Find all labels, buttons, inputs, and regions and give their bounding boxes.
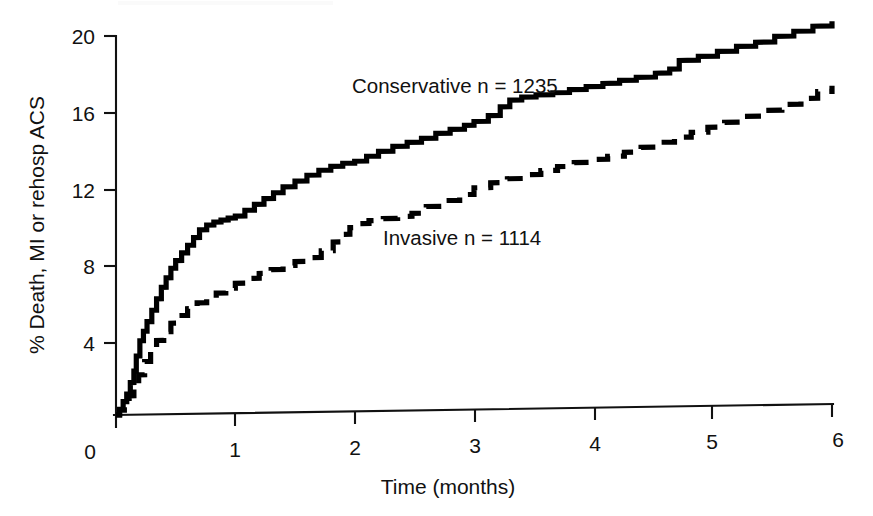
y-tick-label: 12 — [72, 179, 95, 202]
x-tick-label: 5 — [706, 430, 718, 453]
y-tick-label: 20 — [72, 25, 95, 48]
y-tick-marks — [104, 36, 116, 343]
x-axis-title: Time (months) — [381, 475, 516, 498]
x-tick-label: 2 — [349, 436, 361, 459]
series-annotation-conservative: Conservative n = 1235 — [352, 74, 558, 97]
y-tick-label: 8 — [83, 255, 95, 278]
series-annotation-invasive: Invasive n = 1114 — [383, 226, 541, 249]
x-tick-label: 0 — [84, 440, 96, 463]
y-axis-title: % Death, MI or rehosp ACS — [25, 96, 48, 354]
x-tick-label: 4 — [589, 432, 601, 455]
y-tick-labels: 20 16 12 8 4 — [72, 25, 96, 355]
y-tick-label: 4 — [83, 332, 95, 355]
x-axis-line — [114, 404, 833, 415]
figure-container: 20 16 12 8 4 0 1 2 3 4 5 6 Time (months)… — [0, 0, 873, 516]
x-tick-label: 6 — [832, 428, 844, 451]
chart-canvas: 20 16 12 8 4 0 1 2 3 4 5 6 Time (months)… — [0, 0, 873, 516]
x-tick-marks — [116, 404, 832, 428]
x-tick-label: 3 — [469, 434, 481, 457]
x-tick-label: 1 — [229, 438, 241, 461]
x-tick-labels: 0 1 2 3 4 5 6 — [84, 428, 844, 463]
series-line-invasive — [116, 86, 832, 415]
y-tick-label: 16 — [72, 102, 95, 125]
